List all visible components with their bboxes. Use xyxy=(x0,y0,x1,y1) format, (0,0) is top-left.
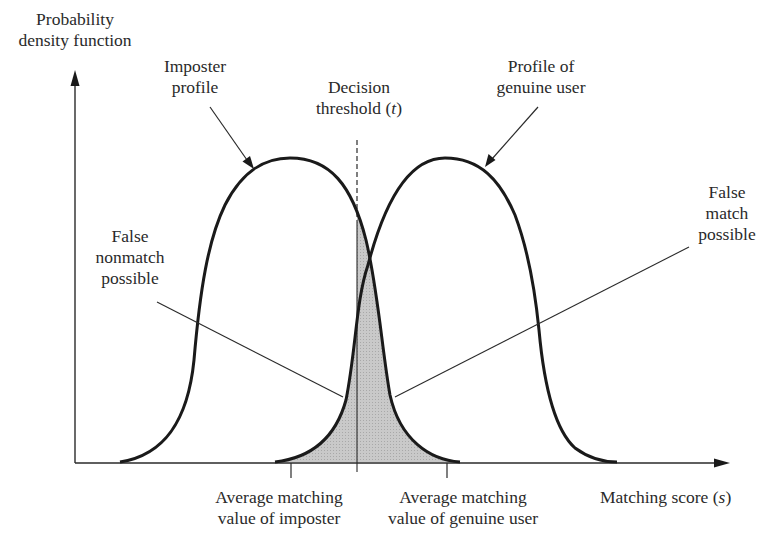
avg-imposter-line2: value of imposter xyxy=(198,508,360,529)
x-axis-arrow-icon xyxy=(714,459,730,468)
false-nonmatch-line2: nonmatch xyxy=(85,247,175,268)
false-nonmatch-leader xyxy=(157,302,343,397)
avg-genuine-label: Average matching value of genuine user xyxy=(368,487,558,529)
y-axis-arrow-icon xyxy=(71,70,80,86)
y-axis-label: Probability density function xyxy=(5,9,145,51)
threshold-label-line1: Decision xyxy=(300,77,418,98)
y-axis-label-line1: Probability xyxy=(5,9,145,30)
threshold-label-line2: threshold (t) xyxy=(300,98,418,119)
genuine-label-line1: Profile of xyxy=(486,56,596,77)
genuine-profile-label: Profile of genuine user xyxy=(486,56,596,98)
avg-genuine-line1: Average matching xyxy=(368,487,558,508)
y-axis-label-line2: density function xyxy=(5,30,145,51)
decision-threshold-label: Decision threshold (t) xyxy=(300,77,418,119)
x-axis-label-close: ) xyxy=(725,487,731,507)
genuine-label-line2: genuine user xyxy=(486,77,596,98)
imposter-label-line2: profile xyxy=(150,77,240,98)
threshold-label-text: threshold ( xyxy=(316,98,391,118)
false-match-region xyxy=(290,158,460,462)
false-match-line1: False xyxy=(690,182,764,203)
imposter-profile-label: Imposter profile xyxy=(150,56,240,98)
false-match-line2: match xyxy=(690,203,764,224)
x-axis-label-text: Matching score ( xyxy=(600,487,719,507)
imposter-arrow-icon xyxy=(243,156,255,169)
genuine-leader-line xyxy=(492,107,538,159)
false-nonmatch-line1: False xyxy=(85,226,175,247)
false-match-label: False match possible xyxy=(690,182,764,245)
imposter-label-line1: Imposter xyxy=(150,56,240,77)
threshold-label-close: ) xyxy=(396,98,402,118)
avg-imposter-label: Average matching value of imposter xyxy=(198,487,360,529)
x-axis-label: Matching score (s) xyxy=(600,487,760,508)
imposter-leader-line xyxy=(210,107,247,160)
avg-imposter-line1: Average matching xyxy=(198,487,360,508)
imposter-curve xyxy=(120,158,460,462)
avg-genuine-line2: value of genuine user xyxy=(368,508,558,529)
false-match-leader xyxy=(395,247,689,397)
false-nonmatch-line3: possible xyxy=(85,268,175,289)
false-nonmatch-label: False nonmatch possible xyxy=(85,226,175,289)
false-match-line3: possible xyxy=(690,224,764,245)
